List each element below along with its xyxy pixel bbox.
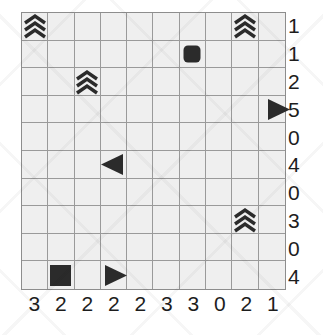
grid-cell[interactable] xyxy=(180,179,206,207)
grid-cell[interactable] xyxy=(153,123,179,151)
grid-cell[interactable] xyxy=(206,96,232,124)
grid-cell[interactable] xyxy=(127,13,153,41)
grid-cell[interactable] xyxy=(153,234,179,262)
grid-cell[interactable] xyxy=(22,123,48,151)
grid-cell[interactable] xyxy=(259,41,285,69)
grid-cell[interactable] xyxy=(75,13,101,41)
grid-cell[interactable] xyxy=(22,96,48,124)
grid-cell[interactable] xyxy=(180,151,206,179)
grid-cell[interactable] xyxy=(153,13,179,41)
grid-cell[interactable] xyxy=(206,68,232,96)
grid-cell[interactable] xyxy=(22,234,48,262)
grid-cell[interactable] xyxy=(22,179,48,207)
grid-cell[interactable] xyxy=(48,179,74,207)
grid-cell[interactable] xyxy=(75,96,101,124)
grid-cell[interactable] xyxy=(127,234,153,262)
grid-cell[interactable] xyxy=(180,261,206,289)
grid-cell[interactable] xyxy=(180,206,206,234)
grid-cell[interactable] xyxy=(48,123,74,151)
grid-cell[interactable] xyxy=(206,41,232,69)
grid-cell[interactable] xyxy=(232,96,258,124)
grid-cell[interactable] xyxy=(101,96,127,124)
grid-cell[interactable] xyxy=(232,13,258,41)
grid-cell[interactable] xyxy=(101,261,127,289)
grid-cell[interactable] xyxy=(206,179,232,207)
grid-cell[interactable] xyxy=(101,179,127,207)
grid-cell[interactable] xyxy=(180,41,206,69)
grid-cell[interactable] xyxy=(75,234,101,262)
grid-cell[interactable] xyxy=(101,13,127,41)
grid-cell[interactable] xyxy=(22,206,48,234)
grid-cell[interactable] xyxy=(101,234,127,262)
grid-cell[interactable] xyxy=(206,123,232,151)
grid-cell[interactable] xyxy=(259,68,285,96)
grid-cell[interactable] xyxy=(48,41,74,69)
grid-cell[interactable] xyxy=(259,179,285,207)
grid-cell[interactable] xyxy=(153,261,179,289)
grid-cell[interactable] xyxy=(75,151,101,179)
grid-cell[interactable] xyxy=(22,41,48,69)
grid-cell[interactable] xyxy=(48,234,74,262)
grid-cell[interactable] xyxy=(206,261,232,289)
grid-cell[interactable] xyxy=(22,13,48,41)
grid-cell[interactable] xyxy=(75,206,101,234)
grid-cell[interactable] xyxy=(232,261,258,289)
grid-cell[interactable] xyxy=(232,68,258,96)
grid-cell[interactable] xyxy=(22,151,48,179)
grid-cell[interactable] xyxy=(48,96,74,124)
grid-cell[interactable] xyxy=(153,68,179,96)
grid-cell[interactable] xyxy=(101,151,127,179)
grid-cell[interactable] xyxy=(48,151,74,179)
grid-cell[interactable] xyxy=(101,41,127,69)
grid-cell[interactable] xyxy=(259,234,285,262)
grid-cell[interactable] xyxy=(232,206,258,234)
grid-cell[interactable] xyxy=(127,179,153,207)
grid-cell[interactable] xyxy=(22,261,48,289)
grid-cell[interactable] xyxy=(206,151,232,179)
grid-cell[interactable] xyxy=(22,68,48,96)
grid-cell[interactable] xyxy=(232,234,258,262)
grid-cell[interactable] xyxy=(101,123,127,151)
grid-cell[interactable] xyxy=(127,151,153,179)
grid-cell[interactable] xyxy=(127,68,153,96)
grid-cell[interactable] xyxy=(48,68,74,96)
grid-cell[interactable] xyxy=(75,41,101,69)
grid-cell[interactable] xyxy=(48,206,74,234)
grid-cell[interactable] xyxy=(180,96,206,124)
grid-cell[interactable] xyxy=(259,96,285,124)
grid-cell[interactable] xyxy=(127,261,153,289)
grid-cell[interactable] xyxy=(206,13,232,41)
grid-cell[interactable] xyxy=(259,151,285,179)
grid-cell[interactable] xyxy=(127,123,153,151)
grid-cell[interactable] xyxy=(127,41,153,69)
grid-cell[interactable] xyxy=(180,13,206,41)
grid-cell[interactable] xyxy=(153,96,179,124)
grid-cell[interactable] xyxy=(127,96,153,124)
grid-cell[interactable] xyxy=(259,261,285,289)
grid-cell[interactable] xyxy=(153,179,179,207)
grid-cell[interactable] xyxy=(232,123,258,151)
grid-cell[interactable] xyxy=(180,123,206,151)
grid-cell[interactable] xyxy=(180,68,206,96)
grid-cell[interactable] xyxy=(75,261,101,289)
grid-cell[interactable] xyxy=(206,234,232,262)
grid-cell[interactable] xyxy=(259,13,285,41)
grid-cell[interactable] xyxy=(48,261,74,289)
grid-cell[interactable] xyxy=(206,206,232,234)
grid-cell[interactable] xyxy=(153,206,179,234)
grid[interactable] xyxy=(21,12,286,290)
grid-cell[interactable] xyxy=(232,151,258,179)
grid-cell[interactable] xyxy=(48,13,74,41)
grid-cell[interactable] xyxy=(101,206,127,234)
grid-cell[interactable] xyxy=(259,206,285,234)
grid-cell[interactable] xyxy=(127,206,153,234)
grid-cell[interactable] xyxy=(153,41,179,69)
grid-cell[interactable] xyxy=(75,68,101,96)
grid-cell[interactable] xyxy=(75,179,101,207)
grid-cell[interactable] xyxy=(153,151,179,179)
grid-cell[interactable] xyxy=(180,234,206,262)
grid-cell[interactable] xyxy=(232,41,258,69)
grid-cell[interactable] xyxy=(75,123,101,151)
grid-cell[interactable] xyxy=(101,68,127,96)
grid-cell[interactable] xyxy=(259,123,285,151)
